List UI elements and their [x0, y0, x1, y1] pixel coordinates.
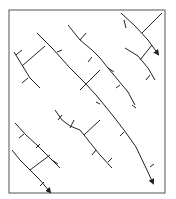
- cross-link: [22, 46, 45, 66]
- cross-link: [80, 70, 100, 90]
- flow-line-f: [55, 110, 112, 168]
- tick-mark: [57, 50, 62, 52]
- tick-mark: [150, 164, 154, 167]
- tick-mark: [92, 150, 96, 155]
- flow-line-d: [125, 48, 155, 80]
- diagram-canvas: [0, 0, 176, 199]
- flow-line-e: [14, 52, 40, 88]
- tick-mark: [88, 57, 92, 62]
- tick-mark: [80, 33, 86, 40]
- main-flow-lines: [12, 13, 158, 192]
- cross-link: [140, 45, 152, 60]
- tick-mark: [19, 134, 24, 138]
- tick-mark: [16, 50, 22, 55]
- flow-line-b: [68, 25, 135, 105]
- tick-mark: [116, 85, 120, 88]
- cross-link-lines: [22, 13, 162, 170]
- cross-link: [142, 13, 162, 33]
- diagram-frame: [9, 10, 165, 193]
- tick-mark: [108, 158, 112, 162]
- tick-mark: [146, 75, 150, 80]
- tick-mark: [120, 132, 124, 136]
- tick-mark: [132, 105, 136, 108]
- flow-line-h: [12, 150, 50, 192]
- tick-mark: [96, 102, 100, 104]
- tick-marks: [16, 20, 154, 186]
- tick-mark: [22, 78, 28, 83]
- flow-line-c: [121, 13, 158, 54]
- cross-link: [84, 120, 100, 135]
- tick-mark: [124, 20, 126, 28]
- cross-link: [30, 155, 50, 170]
